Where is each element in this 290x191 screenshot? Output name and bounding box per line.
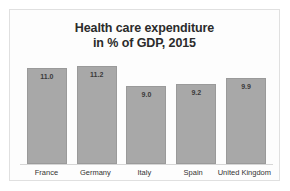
bar-value-italy: 9.0 <box>127 91 165 98</box>
bar-slot-spain: 9.2 <box>171 56 221 164</box>
category-label-spain: Spain <box>169 168 218 177</box>
bar-spain: 9.2 <box>176 84 216 164</box>
bar-slot-germany: 11.2 <box>72 56 122 164</box>
category-label-germany: Germany <box>71 168 120 177</box>
category-label-italy: Italy <box>120 168 169 177</box>
bar-value-germany: 11.2 <box>78 71 116 78</box>
category-label-united-kingdom: United Kingdom <box>218 168 271 177</box>
chart-frame: Health care expenditure in % of GDP, 201… <box>9 9 280 181</box>
chart-title: Health care expenditure in % of GDP, 201… <box>10 21 279 51</box>
bar-italy: 9.0 <box>126 86 166 164</box>
bar-germany: 11.2 <box>77 66 117 164</box>
category-label-france: France <box>22 168 71 177</box>
bar-slot-italy: 9.0 <box>122 56 172 164</box>
category-axis-labels: France Germany Italy Spain United Kingdo… <box>22 168 271 177</box>
chart-title-line-2: in % of GDP, 2015 <box>10 36 279 51</box>
bar-slot-united-kingdom: 9.9 <box>221 56 271 164</box>
bar-value-france: 11.0 <box>28 73 66 80</box>
chart-title-line-1: Health care expenditure <box>10 21 279 36</box>
bar-france: 11.0 <box>27 68 67 164</box>
bar-value-united-kingdom: 9.9 <box>227 83 265 90</box>
axis-baseline <box>20 164 273 165</box>
bar-slot-france: 11.0 <box>22 56 72 164</box>
bar-value-spain: 9.2 <box>177 89 215 96</box>
bar-united-kingdom: 9.9 <box>226 78 266 164</box>
bars-container: 11.0 11.2 9.0 9.2 9.9 <box>22 56 271 164</box>
